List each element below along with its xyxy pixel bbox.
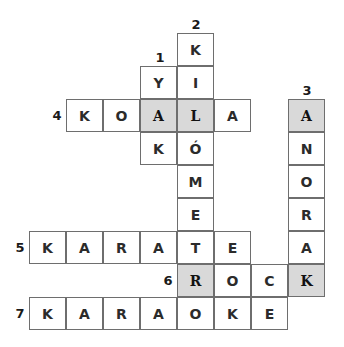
crossword-cell[interactable]: A [288, 99, 325, 132]
cell-letter: O [301, 174, 313, 190]
cell-letter: K [79, 108, 90, 124]
cell-letter: A [79, 306, 90, 322]
cell-letter: O [227, 273, 239, 289]
cell-letter: A [301, 240, 312, 256]
cell-letter: E [265, 306, 275, 322]
cell-letter: C [264, 273, 274, 289]
crossword-cell[interactable]: A [66, 231, 103, 264]
clue-number: 1 [150, 48, 170, 66]
crossword-cell[interactable]: K [29, 231, 66, 264]
crossword-cell[interactable]: E [251, 297, 288, 330]
clue-number: 2 [186, 15, 206, 33]
clue-number: 5 [10, 238, 30, 256]
cell-letter: A [301, 108, 312, 124]
crossword-cell[interactable]: K [177, 33, 214, 66]
cell-letter: I [193, 75, 198, 91]
cell-letter: Y [153, 75, 163, 91]
crossword-cell[interactable]: Y [140, 66, 177, 99]
crossword-cell[interactable]: A [140, 99, 177, 132]
cell-letter: A [153, 306, 164, 322]
clue-number: 4 [47, 106, 67, 124]
cell-letter: M [189, 174, 203, 190]
crossword-cell[interactable]: E [214, 231, 251, 264]
crossword-cell[interactable]: O [177, 297, 214, 330]
crossword-cell[interactable]: K [288, 264, 325, 297]
crossword-cell[interactable]: C [251, 264, 288, 297]
crossword-cell[interactable]: R [103, 297, 140, 330]
cell-letter: O [190, 306, 202, 322]
cell-letter: R [116, 306, 127, 322]
cell-letter: R [301, 207, 312, 223]
crossword-cell[interactable]: R [103, 231, 140, 264]
cell-letter: T [191, 240, 201, 256]
cell-letter: K [42, 306, 53, 322]
cell-letter: A [153, 108, 164, 124]
cell-letter: A [79, 240, 90, 256]
crossword-cell[interactable]: M [177, 165, 214, 198]
crossword-cell[interactable]: A [214, 99, 251, 132]
crossword-cell[interactable]: A [140, 231, 177, 264]
crossword-cell[interactable]: A [140, 297, 177, 330]
cell-letter: E [228, 240, 238, 256]
crossword-grid: KYIKOALAAKÓNMOERKARATEAROCKKARAOKE123456… [0, 0, 344, 347]
cell-letter: N [301, 141, 313, 157]
cell-letter: L [191, 108, 201, 124]
crossword-cell[interactable]: K [29, 297, 66, 330]
crossword-cell[interactable]: E [177, 198, 214, 231]
cell-letter: A [153, 240, 164, 256]
clue-number: 3 [297, 81, 317, 99]
cell-letter: K [190, 42, 201, 58]
crossword-cell[interactable]: L [177, 99, 214, 132]
crossword-cell[interactable]: A [288, 231, 325, 264]
crossword-cell[interactable]: T [177, 231, 214, 264]
cell-letter: O [116, 108, 128, 124]
clue-number: 6 [158, 271, 178, 289]
crossword-cell[interactable]: K [66, 99, 103, 132]
crossword-cell[interactable]: R [177, 264, 214, 297]
cell-letter: K [42, 240, 53, 256]
crossword-cell[interactable]: N [288, 132, 325, 165]
cell-letter: K [153, 141, 164, 157]
cell-letter: E [191, 207, 201, 223]
clue-number: 7 [10, 304, 30, 322]
crossword-cell[interactable]: A [66, 297, 103, 330]
cell-letter: R [190, 273, 202, 289]
cell-letter: K [227, 306, 238, 322]
crossword-cell[interactable]: I [177, 66, 214, 99]
crossword-cell[interactable]: K [214, 297, 251, 330]
crossword-cell[interactable]: O [288, 165, 325, 198]
cell-letter: Ó [190, 141, 202, 157]
crossword-cell[interactable]: Ó [177, 132, 214, 165]
crossword-cell[interactable]: K [140, 132, 177, 165]
crossword-cell[interactable]: O [103, 99, 140, 132]
crossword-cell[interactable]: R [288, 198, 325, 231]
crossword-cell[interactable]: O [214, 264, 251, 297]
cell-letter: K [300, 273, 312, 289]
cell-letter: A [227, 108, 238, 124]
cell-letter: R [116, 240, 127, 256]
